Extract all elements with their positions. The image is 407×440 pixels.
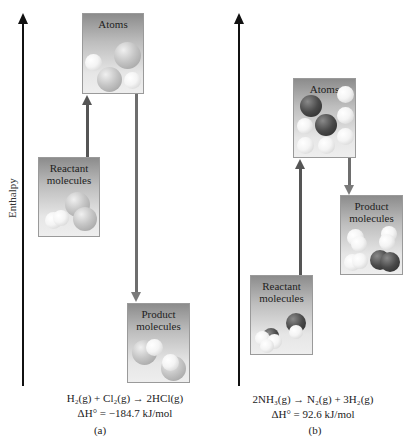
delta-h-a: ΔH° = −184.7 kJ/mol — [50, 407, 200, 419]
h-atom-icon — [337, 86, 354, 103]
bond-breaking-arrow-b — [299, 168, 302, 275]
n-atom-icon — [315, 114, 337, 136]
axis-arrowhead-a-icon — [18, 13, 28, 24]
caption-a: (a) — [75, 424, 125, 436]
hcl-h-atom-icon — [162, 354, 179, 371]
product-label-a: Product molecules — [128, 308, 189, 332]
h-atom-icon — [297, 137, 314, 154]
atoms-label-a: Atoms — [83, 18, 143, 30]
axis-arrowhead-b-icon — [234, 13, 244, 24]
product-label-b: Product molecules — [341, 200, 402, 224]
caption-b: (b) — [290, 424, 340, 436]
cl-atom-icon — [97, 67, 122, 92]
atoms-box-a: Atoms — [82, 13, 144, 94]
nh3-h-atom-icon — [289, 325, 303, 339]
h2-molecule-icon — [352, 253, 368, 269]
bond-forming-arrow-b — [348, 158, 351, 186]
bond-forming-arrow-a — [135, 94, 138, 294]
arrow-up-b-icon — [295, 159, 305, 169]
nh3-h-atom-icon — [260, 339, 274, 353]
reactant-label-b: Reactant molecules — [251, 280, 312, 304]
arrow-down-b-icon — [344, 185, 354, 195]
h-atom-icon — [297, 118, 313, 134]
delta-h-b: ΔH° = 92.6 kJ/mol — [238, 408, 388, 420]
h-atom-icon — [337, 128, 354, 145]
reactant-box-b: Reactant molecules — [250, 275, 313, 355]
reactant-box-a: Reactant molecules — [38, 157, 100, 237]
cl-atom-icon — [114, 42, 141, 69]
product-box-b: Product molecules — [340, 195, 403, 275]
h2-molecule-icon — [379, 234, 395, 250]
atoms-box-b: Atoms — [293, 78, 356, 158]
hcl-h-atom-icon — [146, 339, 163, 356]
product-box-a: Product molecules — [127, 303, 190, 383]
y-axis-label: Enthalpy — [6, 178, 18, 218]
h-atom-icon — [85, 54, 102, 71]
h2-molecule-icon — [351, 236, 367, 252]
reactant-label-a: Reactant molecules — [39, 162, 99, 186]
bond-breaking-arrow-a — [86, 104, 89, 157]
equation-b: 2NH₃(g) → N₂(g) + 3H₂(g) — [238, 393, 388, 405]
equation-a: H₂(g) + Cl₂(g) → 2HCl(g) — [50, 392, 200, 404]
enthalpy-axis-b — [238, 22, 240, 386]
enthalpy-axis-a — [22, 22, 24, 386]
cl2-molecule-icon — [73, 207, 97, 231]
h2-molecule-icon — [53, 210, 69, 226]
h-atom-icon — [337, 107, 354, 124]
arrow-down-a-icon — [131, 292, 141, 302]
n-atom-icon — [300, 95, 322, 117]
arrow-up-a-icon — [82, 95, 92, 105]
h-atom-icon — [318, 137, 335, 154]
n2-molecule-icon — [380, 252, 400, 272]
h-atom-icon — [124, 72, 141, 89]
